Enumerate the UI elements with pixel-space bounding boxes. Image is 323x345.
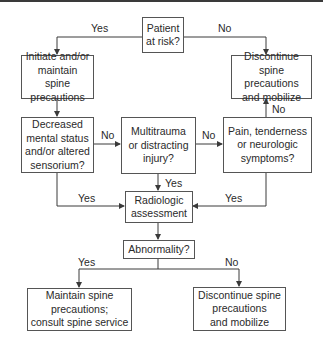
edge-label-pain-yes: Yes: [225, 192, 242, 204]
edge-label-abnormality-no: No: [225, 256, 238, 268]
edge-label-abnormality-yes: Yes: [78, 256, 95, 268]
edge-label-patient-yes: Yes: [91, 22, 108, 34]
node-radiologic-assessment: Radiologic assessment: [125, 191, 193, 223]
node-multitrauma: Multitrauma or distracting injury?: [121, 117, 196, 174]
edge-label-decreased-yes: Yes: [78, 192, 95, 204]
edge-label-pain-no: No: [272, 103, 285, 115]
node-pain-tenderness: Pain, tenderness or neurologic symptoms?: [223, 117, 312, 173]
flowchart-canvas: Patient at risk? Initiate and/or maintai…: [0, 0, 323, 345]
edge-label-decreased-no: No: [101, 129, 114, 141]
node-patient-at-risk: Patient at risk?: [142, 17, 184, 53]
edge-label-patient-no: No: [218, 22, 231, 34]
node-discontinue-top: Discontinue spine precautions and mobili…: [231, 55, 312, 99]
node-abnormality: Abnormality?: [123, 240, 195, 259]
edge-label-multitrauma-yes: Yes: [165, 177, 182, 189]
node-decreased-mental-status: Decreased mental status and/or altered s…: [21, 117, 94, 173]
node-maintain-consult: Maintain spine precautions; consult spin…: [27, 288, 132, 331]
edge-label-multitrauma-no: No: [202, 129, 215, 141]
node-discontinue-bottom: Discontinue spine precautions and mobili…: [193, 287, 286, 331]
node-initiate-precautions: Initiate and/or maintain spine precautio…: [21, 55, 94, 99]
